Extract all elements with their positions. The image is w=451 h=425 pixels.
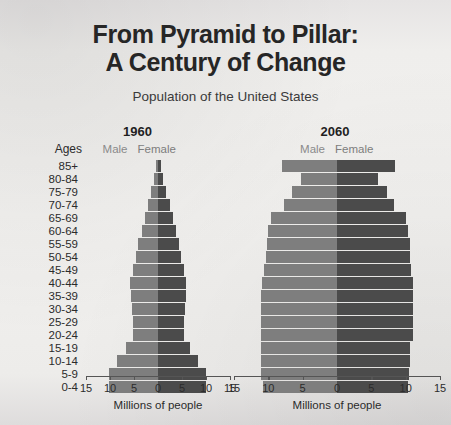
bar-male bbox=[301, 173, 337, 185]
axis-tick bbox=[182, 376, 183, 380]
bar-female bbox=[337, 186, 387, 198]
age-group-label: 10-14 bbox=[20, 355, 82, 367]
legend-female-label: Female bbox=[138, 143, 182, 155]
pyramid-row bbox=[86, 173, 230, 185]
pyramid-row bbox=[234, 238, 440, 250]
pyramid-row bbox=[86, 251, 230, 263]
bar-male bbox=[261, 368, 337, 380]
bar-male bbox=[117, 355, 158, 367]
bar-female bbox=[158, 238, 179, 250]
pyramid-row bbox=[86, 264, 230, 276]
age-group-label: 60-64 bbox=[20, 225, 82, 237]
bar-female bbox=[158, 303, 185, 315]
axis-tick-label: 0 bbox=[334, 382, 340, 394]
axis-tick-label: 10 bbox=[200, 382, 212, 394]
bar-male bbox=[292, 186, 337, 198]
bar-female bbox=[337, 264, 411, 276]
plot-area-1960: 85+80-8475-7970-7465-6960-6455-5950-5445… bbox=[20, 160, 230, 376]
bar-female bbox=[337, 316, 413, 328]
pyramid-row bbox=[86, 199, 230, 211]
bar-female bbox=[158, 212, 173, 224]
axis-tick bbox=[303, 376, 304, 380]
age-group-label: 20-24 bbox=[20, 329, 82, 341]
bar-male bbox=[284, 199, 337, 211]
bar-female bbox=[337, 342, 410, 354]
bar-female bbox=[158, 277, 186, 289]
bar-female bbox=[337, 225, 408, 237]
bar-female bbox=[337, 238, 410, 250]
title-line-2: A Century of Change bbox=[0, 48, 451, 76]
axis-tick bbox=[268, 376, 269, 380]
age-group-label: 45-49 bbox=[20, 264, 82, 276]
axis-tick-label: 10 bbox=[104, 382, 116, 394]
bar-male bbox=[264, 264, 337, 276]
pyramid-row bbox=[86, 316, 230, 328]
axis-tick-label: 5 bbox=[179, 382, 185, 394]
bar-male bbox=[132, 303, 158, 315]
bar-male bbox=[268, 225, 337, 237]
age-group-label: 35-39 bbox=[20, 290, 82, 302]
x-axis-1960 bbox=[20, 376, 230, 377]
bar-female bbox=[158, 225, 176, 237]
infographic: From Pyramid to Pillar: A Century of Cha… bbox=[0, 0, 451, 425]
page-title: From Pyramid to Pillar: A Century of Cha… bbox=[0, 20, 451, 76]
panel-year-2060: 2060 bbox=[230, 124, 440, 139]
pyramid-row bbox=[234, 199, 440, 211]
bars-1960 bbox=[86, 160, 230, 376]
age-group-label: 25-29 bbox=[20, 316, 82, 328]
bar-female bbox=[337, 277, 413, 289]
pyramid-row bbox=[234, 290, 440, 302]
pyramid-row bbox=[234, 277, 440, 289]
legend-2060: Male Female bbox=[230, 143, 440, 155]
axis-tick bbox=[337, 376, 338, 380]
age-group-label: 70-74 bbox=[20, 199, 82, 211]
bar-male bbox=[262, 277, 337, 289]
axis-tick-label: 15 bbox=[434, 382, 446, 394]
axis-tick bbox=[134, 376, 135, 380]
pyramid-row bbox=[234, 173, 440, 185]
bar-male bbox=[261, 290, 337, 302]
axis-tick-label: 5 bbox=[131, 382, 137, 394]
pyramid-row bbox=[234, 251, 440, 263]
bar-male bbox=[138, 238, 158, 250]
pyramid-row bbox=[234, 355, 440, 367]
pyramid-row bbox=[86, 355, 230, 367]
axis-tick bbox=[234, 376, 235, 380]
age-group-label: 30-34 bbox=[20, 303, 82, 315]
pyramid-row bbox=[86, 303, 230, 315]
bar-male bbox=[145, 212, 158, 224]
axis-tick bbox=[206, 376, 207, 380]
bar-female bbox=[337, 329, 413, 341]
bar-female bbox=[158, 173, 163, 185]
axis-tick-label: 15 bbox=[80, 382, 92, 394]
age-group-label: 5-9 bbox=[20, 368, 82, 380]
legend-male-label: Male bbox=[291, 143, 325, 155]
legend-male-label: Male bbox=[94, 143, 128, 155]
bar-male bbox=[261, 342, 337, 354]
bar-male bbox=[136, 251, 158, 263]
axis-tick-label: 5 bbox=[368, 382, 374, 394]
bar-male bbox=[131, 290, 158, 302]
axis-tick bbox=[86, 376, 87, 380]
axis-tick bbox=[371, 376, 372, 380]
bar-female bbox=[158, 264, 184, 276]
pyramid-row bbox=[86, 238, 230, 250]
plot-area-2060 bbox=[230, 160, 440, 376]
bar-male bbox=[282, 160, 337, 172]
bar-female bbox=[158, 160, 161, 172]
pyramid-row bbox=[234, 303, 440, 315]
pyramid-row bbox=[234, 225, 440, 237]
age-group-label: 75-79 bbox=[20, 186, 82, 198]
ages-header: Ages bbox=[20, 142, 82, 156]
bar-female bbox=[337, 173, 378, 185]
age-group-label: 50-54 bbox=[20, 251, 82, 263]
x-axis-2060 bbox=[230, 376, 440, 377]
age-group-label: 80-84 bbox=[20, 173, 82, 185]
x-tick-labels-1960: 15105051015 bbox=[20, 382, 230, 396]
bar-female bbox=[337, 355, 410, 367]
axis-tick bbox=[110, 376, 111, 380]
pyramid-row bbox=[234, 342, 440, 354]
axis-tick bbox=[440, 376, 441, 380]
axis-tick-label: 0 bbox=[155, 382, 161, 394]
bar-male bbox=[266, 251, 337, 263]
